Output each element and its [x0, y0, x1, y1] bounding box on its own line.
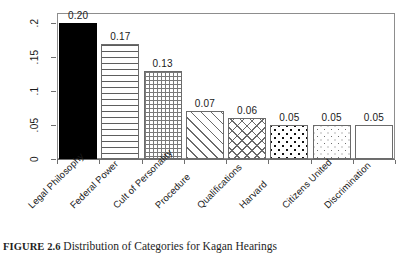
- x-tick-mark: [142, 160, 143, 164]
- x-tick-mark: [311, 160, 312, 164]
- x-tick-mark: [268, 160, 269, 164]
- x-tick-mark: [99, 160, 100, 164]
- figure-container: 0.05.1.15.2 0.200.170.130.070.060.050.05…: [0, 0, 417, 255]
- x-tick-mark: [226, 160, 227, 164]
- x-tick-mark: [57, 160, 58, 164]
- caption-label: FIGURE 2.6: [3, 241, 61, 252]
- x-tick-mark: [184, 160, 185, 164]
- x-tick-label: Harvard: [238, 179, 269, 210]
- x-tick-label: Procedure: [153, 172, 192, 211]
- x-tick-mark: [395, 160, 396, 164]
- caption-text: Distribution of Categories for Kagan Hea…: [63, 240, 277, 252]
- figure-caption: FIGURE 2.6 Distribution of Categories fo…: [3, 240, 413, 253]
- x-tick-mark: [353, 160, 354, 164]
- x-tick-layer: Legal PhilosophyFederal PowerCult of Per…: [0, 0, 417, 255]
